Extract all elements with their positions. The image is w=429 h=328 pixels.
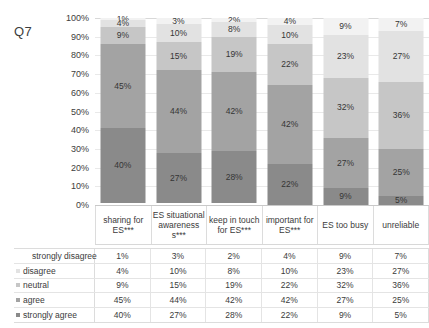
bar-segment-label: 22% (281, 180, 298, 189)
y-axis-tick-label: 30% (71, 144, 89, 154)
bar-segment-label: 19% (226, 50, 243, 59)
table-cell: 7% (373, 249, 429, 263)
bar-segment[interactable]: 45% (100, 44, 145, 128)
bar-segment[interactable]: 42% (267, 85, 312, 164)
legend-label: strongly agree (23, 310, 77, 320)
bar-segment[interactable]: 4% (267, 18, 312, 25)
stacked-bar[interactable]: 1%4%9%45%40% (100, 18, 145, 205)
bar-slot: 3%10%15%44%27% (151, 18, 207, 205)
table-cell: 22% (262, 279, 318, 293)
table-cell: 19% (206, 279, 262, 293)
category-label: keep in touch for ES*** (207, 206, 263, 244)
table-row: disagree4%10%8%10%23%27% (14, 264, 429, 279)
table-cell: 22% (262, 308, 318, 322)
chart-container: Q7 100%90%80%70%60%50%40%30%20%10%0% 1%4… (0, 0, 429, 328)
bar-segment[interactable]: 36% (379, 82, 424, 149)
table-cell: 2% (206, 249, 262, 263)
stacked-bar[interactable]: 4%10%22%42%22% (267, 18, 312, 205)
bar-segment-label: 9% (117, 31, 129, 40)
bar-segment[interactable]: 8% (212, 22, 257, 37)
stacked-bar[interactable]: 9%23%32%27%9% (323, 18, 368, 205)
y-axis-tick-label: 0% (76, 200, 89, 210)
bar-segment[interactable]: 9% (100, 27, 145, 44)
table-cell: 4% (262, 249, 318, 263)
table-cell: 8% (206, 264, 262, 278)
bar-slot: 9%23%32%27%9% (318, 18, 374, 205)
legend-row-header[interactable]: agree (14, 293, 95, 307)
bar-segment-label: 32% (337, 103, 354, 112)
table-cell: 9% (95, 279, 151, 293)
legend-swatch-icon (16, 298, 20, 302)
legend-row-header[interactable]: strongly agree (14, 308, 95, 322)
bar-segment-label: 25% (393, 168, 410, 177)
bar-segment-label: 27% (393, 52, 410, 61)
table-cell: 10% (151, 264, 207, 278)
category-label: unreliable (374, 206, 429, 244)
table-cell: 27% (151, 308, 207, 322)
bar-segment-label: 45% (114, 82, 131, 91)
legend-label: strongly disagree (32, 251, 97, 261)
bar-segment[interactable]: 40% (100, 128, 145, 203)
bar-segment[interactable]: 7% (379, 18, 424, 31)
bar-segment[interactable]: 15% (156, 42, 201, 70)
stacked-bar[interactable]: 2%8%19%42%28% (212, 18, 257, 205)
y-axis-tick-label: 80% (71, 50, 89, 60)
bar-segment-label: 36% (393, 111, 410, 120)
table-cell: 5% (373, 308, 429, 322)
table-cell: 9% (318, 249, 374, 263)
y-axis-tick-label: 100% (66, 13, 89, 23)
table-cell: 9% (318, 308, 374, 322)
bar-segment[interactable]: 44% (156, 70, 201, 152)
table-row: agree45%44%42%42%27%25% (14, 293, 429, 308)
stacked-bar[interactable]: 7%27%36%25%5% (379, 18, 424, 205)
bar-segment-label: 42% (226, 107, 243, 116)
bar-slot: 1%4%9%45%40% (95, 18, 151, 205)
category-label: important for ES*** (263, 206, 319, 244)
bar-segment-label: 5% (395, 196, 407, 205)
category-label-row: sharing for ES***ES situational awarenes… (95, 205, 429, 245)
stacked-bar[interactable]: 3%10%15%44%27% (156, 18, 201, 205)
legend-label: disagree (23, 266, 56, 276)
bar-segment[interactable]: 9% (323, 188, 368, 205)
bar-segment[interactable]: 10% (267, 25, 312, 44)
bar-segment[interactable]: 42% (212, 72, 257, 151)
bar-segment[interactable]: 27% (379, 31, 424, 81)
bar-segment-label: 27% (337, 159, 354, 168)
table-cell: 45% (95, 293, 151, 307)
category-label: ES situational awareness s*** (152, 206, 208, 244)
bar-segment[interactable]: 22% (267, 164, 312, 205)
bar-segment[interactable]: 28% (212, 151, 257, 203)
bar-segment-label: 7% (395, 20, 407, 29)
table-cell: 23% (318, 264, 374, 278)
bar-segment[interactable]: 32% (323, 78, 368, 138)
table-cell: 28% (206, 308, 262, 322)
bar-segment-label: 27% (170, 174, 187, 183)
table-cell: 42% (262, 293, 318, 307)
table-cell: 15% (151, 279, 207, 293)
legend-row-header[interactable]: disagree (14, 264, 95, 278)
legend-row-header[interactable]: strongly disagree (14, 249, 95, 263)
bar-slot: 2%8%19%42%28% (206, 18, 262, 205)
bar-group: 1%4%9%45%40%3%10%15%44%27%2%8%19%42%28%4… (95, 18, 429, 205)
y-axis-tick-label: 40% (71, 125, 89, 135)
bar-slot: 7%27%36%25%5% (373, 18, 429, 205)
bar-slot: 4%10%22%42%22% (262, 18, 318, 205)
bar-segment[interactable]: 27% (156, 153, 201, 203)
bar-segment[interactable]: 10% (156, 24, 201, 43)
bar-segment-label: 9% (339, 22, 351, 31)
bar-segment[interactable]: 19% (212, 37, 257, 73)
legend-row-header[interactable]: neutral (14, 279, 95, 293)
table-cell: 40% (95, 308, 151, 322)
bar-segment[interactable]: 27% (323, 138, 368, 188)
bar-segment[interactable]: 9% (323, 18, 368, 35)
bar-segment[interactable]: 23% (323, 35, 368, 78)
table-cell: 1% (95, 249, 151, 263)
bar-segment-label: 15% (170, 52, 187, 61)
bar-segment[interactable]: 5% (379, 196, 424, 205)
y-axis-tick-label: 60% (71, 88, 89, 98)
y-axis-tick-label: 70% (71, 69, 89, 79)
table-cell: 32% (318, 279, 374, 293)
bar-segment[interactable]: 25% (379, 149, 424, 196)
bar-segment[interactable]: 4% (100, 20, 145, 27)
bar-segment[interactable]: 22% (267, 44, 312, 85)
